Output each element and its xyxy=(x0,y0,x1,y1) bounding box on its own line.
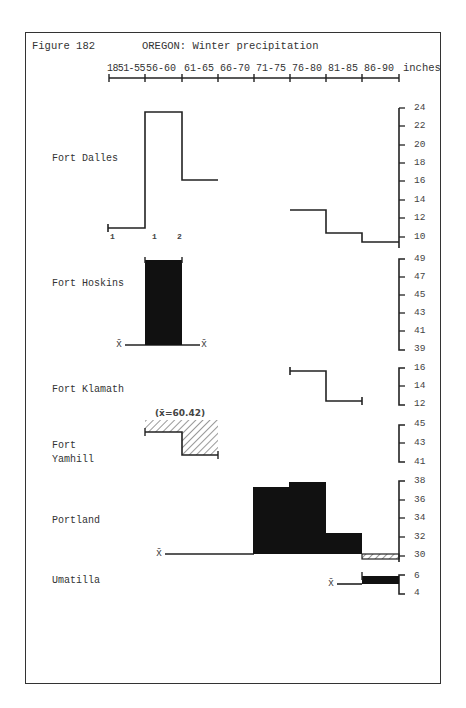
chart-graphics xyxy=(0,0,466,708)
